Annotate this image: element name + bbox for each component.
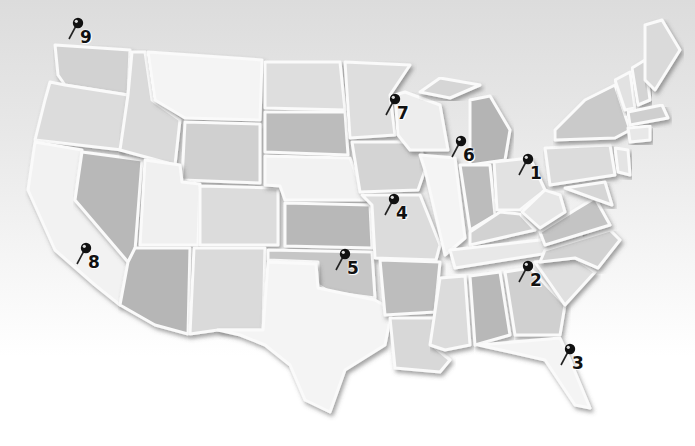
state-nebraska bbox=[265, 156, 365, 200]
pin-8[interactable]: 8 bbox=[74, 242, 108, 276]
pin-9[interactable]: 9 bbox=[66, 17, 100, 51]
pin-7[interactable]: 7 bbox=[383, 93, 417, 127]
pin-1[interactable]: 1 bbox=[516, 153, 550, 187]
state-colorado bbox=[200, 186, 278, 245]
pin-number: 1 bbox=[530, 163, 542, 183]
state-arizona bbox=[120, 248, 190, 334]
pin-number: 7 bbox=[397, 103, 409, 123]
state-michigan-upper bbox=[420, 78, 480, 98]
states-layer bbox=[0, 0, 695, 446]
pin-2[interactable]: 2 bbox=[516, 260, 550, 294]
state-alabama bbox=[470, 272, 510, 345]
state-new-mexico bbox=[190, 248, 265, 334]
pin-number: 4 bbox=[396, 203, 408, 223]
pin-number: 3 bbox=[572, 353, 584, 373]
pin-number: 9 bbox=[80, 27, 92, 47]
pin-5[interactable]: 5 bbox=[333, 248, 367, 282]
pin-number: 5 bbox=[347, 258, 359, 278]
us-map: 1 2 3 4 5 6 7 8 9 bbox=[0, 0, 695, 446]
pin-6[interactable]: 6 bbox=[449, 135, 483, 169]
state-south-dakota bbox=[265, 112, 348, 155]
state-oregon bbox=[35, 82, 128, 150]
state-arkansas bbox=[380, 260, 440, 315]
state-wyoming bbox=[182, 122, 260, 183]
state-connecticut bbox=[628, 126, 650, 142]
state-new-jersey bbox=[615, 148, 630, 175]
state-maine bbox=[645, 20, 680, 90]
state-pennsylvania bbox=[545, 145, 615, 185]
state-north-dakota bbox=[265, 62, 345, 110]
pin-number: 8 bbox=[88, 252, 100, 272]
pin-3[interactable]: 3 bbox=[558, 343, 592, 377]
state-kansas bbox=[285, 203, 372, 248]
pin-4[interactable]: 4 bbox=[382, 193, 416, 227]
pin-number: 6 bbox=[463, 145, 475, 165]
pin-number: 2 bbox=[530, 270, 542, 290]
